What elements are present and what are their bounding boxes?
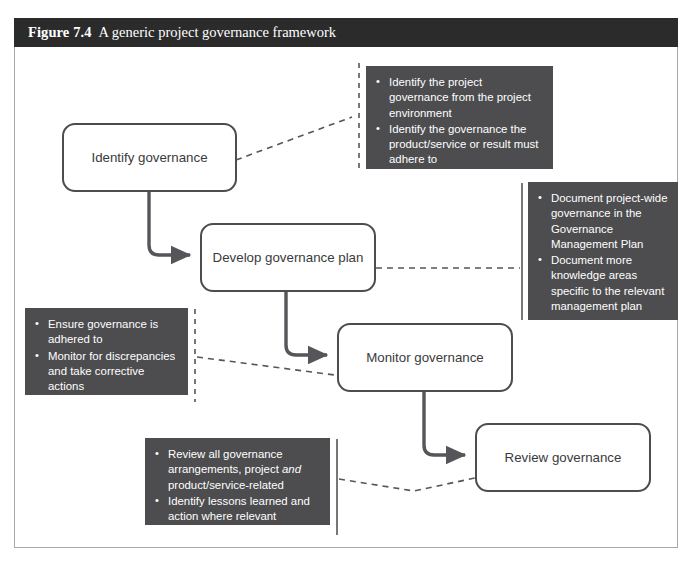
node-review-governance-label: Review governance	[505, 450, 622, 465]
figure-root: Figure 7.4 A generic project governance …	[0, 0, 695, 562]
bullet-icon: •	[35, 316, 39, 331]
bullet-icon: •	[538, 190, 542, 205]
callout-review-governance: • Review all governance arrangements, pr…	[145, 438, 330, 525]
callout-monitor-governance: • Ensure governance is adhered to • Moni…	[25, 308, 188, 395]
callout-review-item-2: Identify lessons learned and action wher…	[168, 495, 310, 522]
figure-number: Figure 7.4	[28, 24, 92, 41]
node-develop-governance-plan-label: Develop governance plan	[213, 250, 364, 265]
callout-review-list: • Review all governance arrangements, pr…	[153, 447, 320, 524]
figure-caption: A generic project governance framework	[99, 24, 337, 41]
bullet-icon: •	[376, 121, 380, 136]
list-item: • Identify the project governance from t…	[374, 75, 543, 121]
callout-monitor-item-1: Ensure governance is adhered to	[48, 318, 158, 345]
list-item: • Document more knowledge areas specific…	[536, 253, 668, 314]
leader-line-monitor	[197, 357, 350, 377]
bullet-icon: •	[538, 252, 542, 267]
node-monitor-governance[interactable]: Monitor governance	[337, 323, 513, 392]
callout-identify-list: • Identify the project governance from t…	[374, 75, 543, 168]
node-review-governance[interactable]: Review governance	[475, 423, 651, 492]
list-item: • Document project-wide governance in th…	[536, 191, 668, 252]
callout-monitor-list: • Ensure governance is adhered to • Moni…	[33, 317, 178, 394]
node-develop-governance-plan[interactable]: Develop governance plan	[200, 223, 376, 292]
list-item: • Identify the governance the product/se…	[374, 122, 543, 168]
list-item: • Review all governance arrangements, pr…	[153, 447, 320, 493]
leader-line-review	[339, 475, 489, 491]
connector-develop-to-monitor	[286, 292, 327, 355]
connector-monitor-to-review	[424, 392, 465, 455]
callout-develop-governance-plan: • Document project-wide governance in th…	[528, 182, 678, 320]
callout-monitor-item-2: Monitor for discrepancies and take corre…	[48, 350, 175, 393]
bullet-icon: •	[155, 493, 159, 508]
callout-develop-list: • Document project-wide governance in th…	[536, 191, 668, 314]
callout-develop-item-2: Document more knowledge areas specific t…	[551, 254, 664, 312]
bullet-icon: •	[376, 74, 380, 89]
callout-identify-item-2: Identify the governance the product/serv…	[389, 123, 538, 166]
node-identify-governance-label: Identify governance	[91, 150, 207, 165]
bullet-icon: •	[155, 446, 159, 461]
list-item: • Monitor for discrepancies and take cor…	[33, 349, 178, 395]
list-item: • Ensure governance is adhered to	[33, 317, 178, 348]
callout-identify-governance: • Identify the project governance from t…	[366, 66, 553, 169]
figure-title-bar: Figure 7.4 A generic project governance …	[14, 18, 678, 47]
callout-review-item-1: Review all governance arrangements, proj…	[168, 448, 301, 491]
list-item: • Identify lessons learned and action wh…	[153, 494, 320, 525]
bullet-icon: •	[35, 348, 39, 363]
connector-identify-to-develop	[149, 192, 190, 255]
leader-line-identify	[236, 117, 352, 160]
node-identify-governance[interactable]: Identify governance	[62, 123, 237, 192]
callout-identify-item-1: Identify the project governance from the…	[389, 76, 531, 119]
diagram-canvas: Identify governance Develop governance p…	[14, 47, 678, 548]
callout-develop-item-1: Document project-wide governance in the …	[551, 192, 668, 250]
node-monitor-governance-label: Monitor governance	[366, 350, 484, 365]
